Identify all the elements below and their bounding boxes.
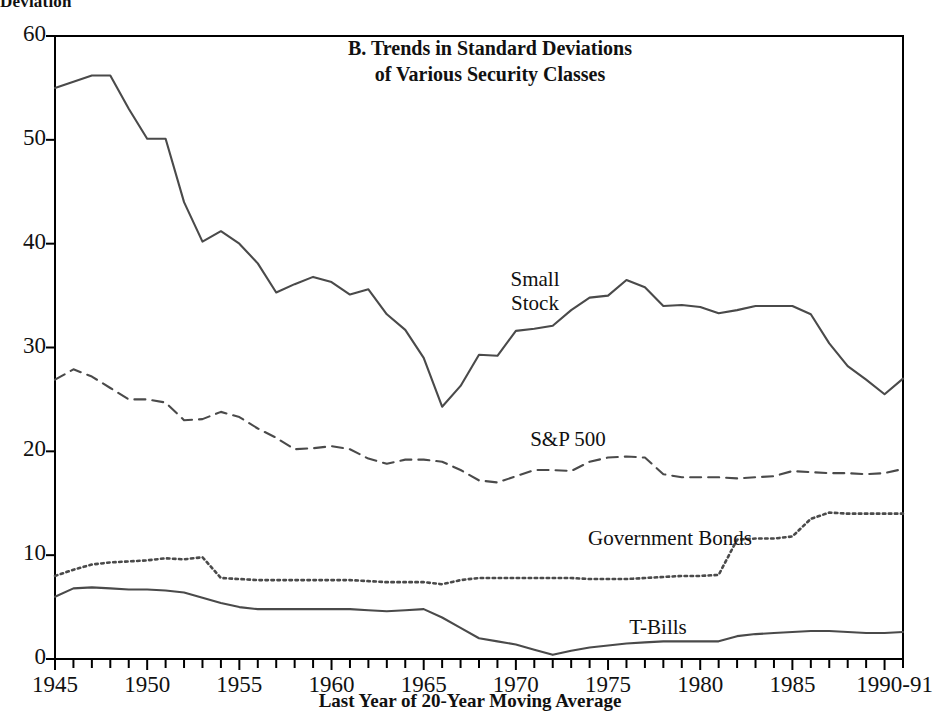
y-tick-label: 60: [0, 21, 46, 47]
x-axis-title: Last Year of 20-Year Moving Average: [160, 690, 780, 712]
chart-series: [55, 75, 903, 654]
series-label-government-bonds: Government Bonds: [560, 527, 780, 551]
series-label-small-stock: Small Stock: [495, 268, 575, 315]
chart-title-line-1: B. Trends in Standard Deviations: [300, 36, 680, 62]
chart-axes: [46, 36, 903, 670]
y-tick-label: 40: [0, 229, 46, 255]
series-line-t-bills: [55, 587, 903, 654]
series-label-sp500: S&P 500: [508, 428, 628, 452]
series-line-small-stock: [55, 75, 903, 406]
y-tick-label: 0: [0, 644, 46, 670]
y-tick-label: 30: [0, 333, 46, 359]
y-tick-label: 10: [0, 540, 46, 566]
series-label-tbills: T-Bills: [608, 616, 708, 640]
chart-title-line-2: of Various Security Classes: [300, 62, 680, 88]
y-tick-label: 50: [0, 125, 46, 151]
chart-title: B. Trends in Standard Deviations of Vari…: [300, 36, 680, 87]
series-line-s-p-500: [55, 369, 903, 482]
y-tick-label: 20: [0, 436, 46, 462]
x-tick-label: 1990-91: [840, 672, 937, 698]
